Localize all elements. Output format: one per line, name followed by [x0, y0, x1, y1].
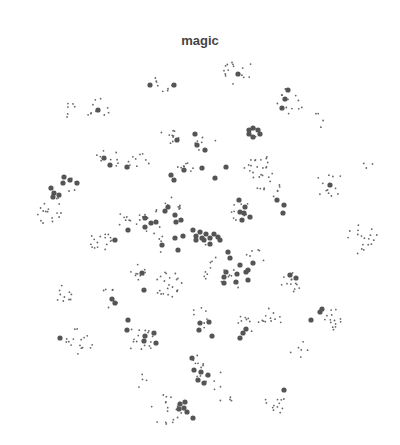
data-point-small — [142, 153, 144, 155]
data-point-large — [281, 387, 286, 392]
point-cluster — [237, 316, 252, 341]
data-point-small — [256, 166, 258, 168]
data-point-small — [280, 321, 282, 323]
data-point-small — [139, 219, 141, 221]
data-point-small — [108, 307, 110, 309]
data-point-small — [201, 141, 203, 143]
data-point-small — [144, 345, 146, 347]
point-cluster — [130, 264, 147, 293]
data-point-small — [177, 278, 179, 280]
data-point-small — [274, 318, 276, 320]
data-point-large — [168, 172, 173, 177]
data-point-small — [130, 348, 132, 350]
data-point-large — [327, 182, 332, 187]
data-point-large — [201, 380, 206, 385]
data-point-small — [295, 95, 297, 97]
data-point-small — [267, 162, 269, 164]
data-point-small — [229, 274, 231, 276]
data-point-small — [177, 206, 179, 208]
data-point-large — [112, 300, 117, 305]
point-cluster — [138, 374, 147, 389]
data-point-small — [131, 329, 133, 331]
data-point-small — [104, 237, 106, 239]
data-point-large — [181, 167, 186, 172]
data-point-small — [59, 294, 61, 296]
data-point-small — [210, 262, 212, 264]
data-point-small — [150, 341, 152, 343]
point-cluster — [147, 77, 176, 92]
data-point-large — [257, 131, 262, 136]
data-point-small — [357, 229, 359, 231]
data-point-large — [217, 237, 222, 242]
data-point-small — [79, 345, 81, 347]
data-point-large — [177, 401, 182, 406]
data-point-large — [125, 227, 130, 232]
data-point-small — [291, 108, 293, 110]
data-point-small — [40, 220, 42, 222]
data-point-small — [165, 402, 167, 404]
data-point-small — [315, 113, 317, 115]
data-point-small — [58, 216, 60, 218]
data-point-small — [294, 288, 296, 290]
data-point-small — [233, 204, 235, 206]
data-point-small — [170, 142, 172, 144]
data-point-small — [171, 296, 173, 298]
data-point-small — [172, 141, 174, 143]
data-point-large — [236, 197, 241, 202]
point-cluster — [119, 213, 144, 232]
data-point-small — [48, 208, 50, 210]
data-point-small — [328, 192, 330, 194]
data-point-large — [190, 227, 195, 232]
data-point-small — [165, 423, 167, 425]
data-point-small — [268, 308, 270, 310]
data-point-large — [107, 162, 112, 167]
data-point-small — [104, 249, 106, 251]
data-point-large — [279, 105, 284, 110]
data-point-small — [166, 396, 168, 398]
data-point-small — [103, 114, 105, 116]
data-point-small — [349, 230, 351, 232]
data-point-small — [187, 162, 189, 164]
data-point-small — [155, 77, 157, 79]
data-point-small — [160, 293, 162, 295]
data-point-large — [281, 202, 286, 207]
data-point-large — [124, 164, 129, 169]
point-cluster — [90, 233, 118, 250]
point-cluster — [190, 227, 222, 246]
data-point-small — [224, 73, 226, 75]
data-point-small — [162, 394, 164, 396]
data-point-small — [42, 222, 44, 224]
point-cluster — [57, 285, 73, 302]
data-point-small — [156, 279, 158, 281]
data-point-small — [160, 251, 162, 253]
data-point-large — [172, 235, 177, 240]
data-point-small — [185, 163, 187, 165]
data-point-small — [237, 287, 239, 289]
data-point-small — [152, 335, 154, 337]
data-point-small — [248, 164, 250, 166]
data-point-small — [232, 83, 234, 85]
data-point-small — [94, 247, 96, 249]
data-point-small — [59, 290, 61, 292]
data-point-large — [246, 131, 251, 136]
data-point-small — [332, 176, 334, 178]
data-point-large — [171, 82, 176, 87]
data-point-small — [159, 290, 161, 292]
data-point-small — [250, 159, 252, 161]
data-point-small — [368, 238, 370, 240]
data-point-small — [90, 112, 92, 114]
point-cluster — [231, 197, 253, 222]
data-point-small — [363, 163, 365, 165]
data-point-small — [326, 315, 328, 317]
data-point-small — [231, 275, 233, 277]
data-point-large — [50, 194, 55, 199]
point-cluster — [363, 163, 374, 169]
data-point-small — [302, 341, 304, 343]
data-point-small — [100, 160, 102, 162]
data-point-small — [126, 216, 128, 218]
data-point-small — [94, 99, 96, 101]
data-point-small — [365, 167, 367, 169]
data-point-small — [215, 140, 217, 142]
data-point-small — [279, 186, 281, 188]
data-point-small — [317, 113, 319, 115]
